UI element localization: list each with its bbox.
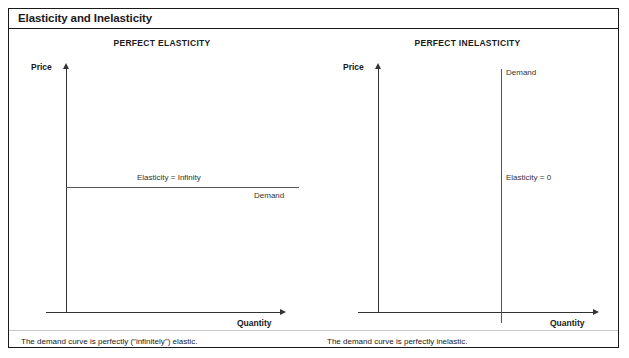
y-axis-arrow-right [375, 63, 381, 69]
y-axis-line-right [378, 69, 379, 313]
y-axis-line-left [66, 69, 67, 313]
caption-divider [9, 330, 618, 331]
elasticity-annotation-right: Elasticity = 0 [506, 173, 551, 182]
y-axis-label-right: Price [343, 62, 364, 72]
caption-left: The demand curve is perfectly ("infinite… [21, 337, 197, 346]
demand-curve-horizontal [66, 187, 299, 188]
x-axis-arrow-left [280, 309, 286, 315]
x-axis-label-left: Quantity [237, 318, 271, 328]
chart-perfect-elasticity: Price Quantity Elasticity = Infinity Dem… [9, 28, 315, 330]
y-axis-label-left: Price [31, 62, 52, 72]
y-axis-arrow-left [63, 63, 69, 69]
page-title: Elasticity and Inelasticity [18, 12, 152, 24]
panel-perfect-inelasticity: PERFECT INELASTICITY Price Quantity Dema… [315, 28, 619, 330]
x-axis-arrow-right [593, 309, 599, 315]
demand-curve-label-left: Demand [254, 191, 284, 200]
demand-curve-label-right: Demand [506, 68, 536, 77]
chart-perfect-inelasticity: Price Quantity Demand Elasticity = 0 [315, 28, 619, 330]
demand-curve-vertical [501, 69, 502, 323]
panel-perfect-elasticity: PERFECT ELASTICITY Price Quantity Elasti… [9, 28, 315, 330]
figure-container: Elasticity and Inelasticity PERFECT ELAS… [8, 8, 619, 348]
x-axis-label-right: Quantity [550, 318, 584, 328]
x-axis-line-right [358, 312, 593, 313]
elasticity-annotation-left: Elasticity = Infinity [137, 173, 201, 182]
caption-right: The demand curve is perfectly inelastic. [327, 337, 468, 346]
figure-title-bar: Elasticity and Inelasticity [9, 9, 618, 28]
x-axis-line-left [46, 312, 280, 313]
